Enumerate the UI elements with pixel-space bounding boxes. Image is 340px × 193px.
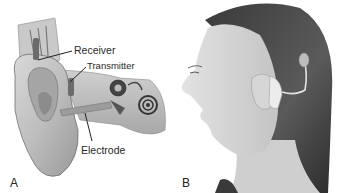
panel-label-a: A bbox=[10, 176, 18, 190]
panel-a-ear-illustration: Receiver Transmitter Electrode A bbox=[0, 0, 170, 193]
callout-receiver: Receiver bbox=[74, 44, 115, 56]
ear-cutaway-illustration bbox=[0, 0, 170, 193]
profile-photo-illustration bbox=[170, 0, 340, 193]
panel-label-b: B bbox=[182, 176, 190, 190]
callout-electrode: Electrode bbox=[81, 144, 125, 156]
callout-transmitter: Transmitter bbox=[87, 60, 135, 71]
panel-b-profile-photo: B bbox=[170, 0, 340, 193]
